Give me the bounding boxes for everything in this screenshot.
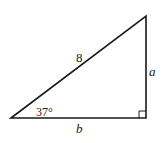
right-triangle: [11, 16, 146, 118]
hypotenuse-label: 8: [76, 51, 83, 64]
side-b-label: b: [76, 122, 83, 135]
triangle-diagram: 8 a b 37°: [0, 0, 162, 143]
right-angle-marker: [139, 111, 146, 118]
angle-label: 37°: [36, 106, 53, 118]
side-a-label: a: [149, 65, 156, 78]
